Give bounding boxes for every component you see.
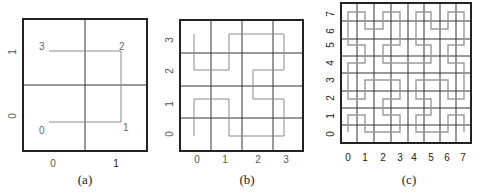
- panel-c-y-axis-ticks: 01234567: [325, 11, 336, 137]
- panel-b: 0123 0123 (b): [164, 20, 303, 187]
- panel-c-x-tick: 1: [362, 152, 368, 163]
- panel-a-caption: (a): [78, 172, 92, 187]
- panel-c-x-tick: 0: [345, 152, 351, 163]
- hilbert-curve-figure: 0 1 2 3 01 01 (a) 0123 0123 (b) 01234567…: [0, 0, 482, 192]
- panel-b-x-tick: 2: [255, 154, 261, 165]
- panel-c-caption: (c): [402, 172, 416, 187]
- panel-b-x-tick: 0: [194, 154, 200, 165]
- panel-c-y-tick: 3: [325, 77, 336, 83]
- panel-a-y-tick: 1: [7, 49, 18, 55]
- panel-c-y-tick: 5: [325, 42, 336, 48]
- panel-a-x-tick: 1: [113, 158, 119, 169]
- panel-a-point-label-2: 2: [119, 41, 125, 52]
- panel-a-y-tick: 0: [7, 113, 18, 119]
- panel-c-x-tick: 7: [460, 152, 466, 163]
- panel-b-y-axis-ticks: 0123: [164, 37, 175, 137]
- panel-c-y-tick: 1: [325, 113, 336, 119]
- panel-b-caption: (b): [239, 172, 254, 187]
- panel-b-y-tick: 2: [164, 68, 175, 74]
- panel-c-y-tick: 6: [325, 28, 336, 34]
- panel-b-y-tick: 3: [164, 37, 175, 43]
- panel-a-x-axis-ticks: 01: [50, 158, 119, 169]
- panel-a: 0 1 2 3 01 01 (a): [7, 19, 147, 187]
- panel-a-y-axis-ticks: 01: [7, 49, 18, 119]
- panel-c: 01234567 01234567 (c): [325, 3, 471, 187]
- panel-c-x-tick: 3: [397, 152, 403, 163]
- panel-c-x-tick: 4: [411, 152, 417, 163]
- panel-c-x-tick: 5: [428, 152, 434, 163]
- panel-c-y-tick: 4: [325, 60, 336, 66]
- panel-a-point-label-0: 0: [39, 125, 45, 136]
- panel-a-point-label-1: 1: [123, 122, 129, 133]
- panel-b-grid: [180, 20, 303, 151]
- panel-b-x-tick: 3: [283, 154, 289, 165]
- panel-b-x-axis-ticks: 0123: [194, 154, 289, 165]
- panel-a-x-tick: 0: [50, 158, 56, 169]
- panel-b-x-tick: 1: [222, 154, 228, 165]
- panel-b-y-tick: 1: [164, 101, 175, 107]
- panel-c-x-axis-ticks: 01234567: [345, 152, 466, 163]
- panel-b-hilbert-curve: [194, 34, 284, 136]
- panel-c-y-tick: 2: [325, 95, 336, 101]
- panel-c-y-tick: 0: [325, 131, 336, 137]
- panel-c-x-tick: 6: [444, 152, 450, 163]
- panel-c-x-tick: 2: [380, 152, 386, 163]
- panel-c-grid: [341, 3, 471, 143]
- panel-a-point-label-3: 3: [39, 41, 45, 52]
- panel-b-y-tick: 0: [164, 131, 175, 137]
- panel-c-y-tick: 7: [325, 11, 336, 17]
- panel-c-hilbert-curve: [348, 12, 464, 132]
